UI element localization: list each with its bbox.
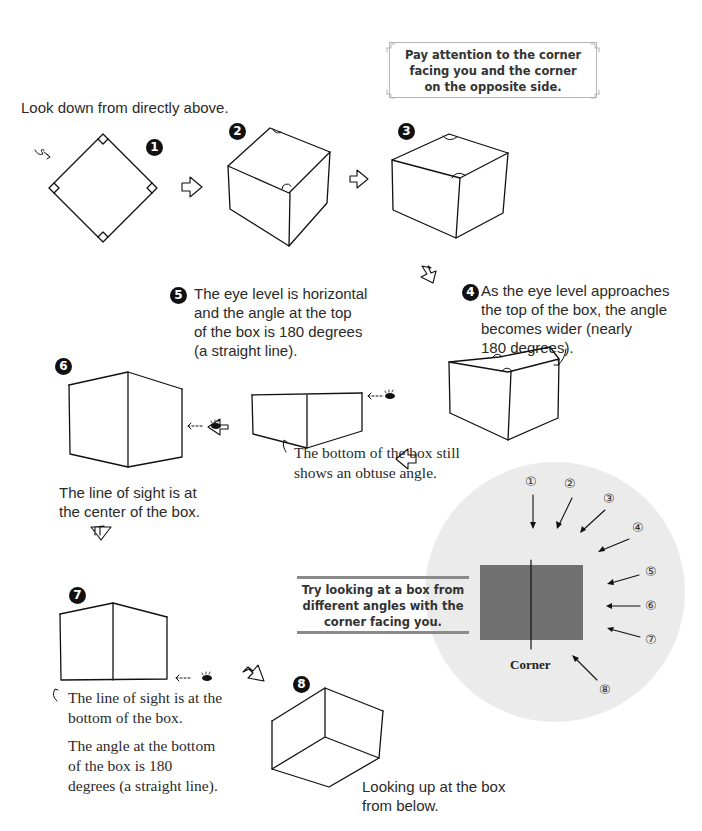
viewpoint-label-4: ④ [632,520,644,535]
step-2-box-drawing [228,128,330,246]
step-6-box-drawing [69,372,182,467]
step-4-pointer [554,349,566,365]
viewpoint-label-6: ⑥ [645,598,657,613]
step-7-note-hook [53,689,58,701]
step-4-box-drawing [449,347,559,440]
drawings-canvas [0,0,702,831]
step-7-box-drawing [60,603,167,680]
arrow-down-step7 [91,526,111,540]
tip-bottom-rule [297,631,469,634]
arrow-right-2 [350,170,368,188]
arrow-down-right-step8 [243,665,264,681]
eye-level-marker-7 [176,672,212,681]
viewpoint-label-1: ① [525,474,537,489]
tip-top-rule [297,576,469,579]
tip-box: Try looking at a box from different angl… [297,582,469,630]
corner-label: Corner [510,657,550,673]
step-5-box-drawing [252,393,362,448]
arrow-down-step4 [421,266,436,283]
viewpoint-label-8: ⑧ [599,682,611,697]
viewpoint-label-3: ③ [603,491,615,506]
eye-level-marker-5 [368,390,395,399]
arrow-left-1 [396,449,416,469]
viewpoint-label-5: ⑤ [645,564,657,579]
arrow-right-1 [182,177,202,197]
step-8-box-drawing [272,688,383,787]
viewpoint-label-2: ② [564,476,576,491]
step-3-box-drawing [392,134,508,238]
viewpoint-label-7: ⑦ [645,632,657,647]
callout-ornaments [387,44,599,98]
step-1-top-view-drawing [35,134,157,242]
